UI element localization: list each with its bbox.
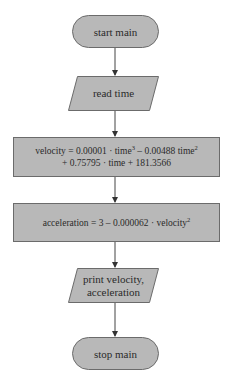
- velocity-process-node: velocity = 0.00001 · time3 – 0.00488 tim…: [13, 137, 220, 177]
- acceleration-formula: acceleration = 3 – 0.000062 · velocity2: [43, 217, 191, 229]
- exponent-2: 2: [187, 216, 190, 223]
- acceleration-term: acceleration = 3 – 0.000062 · velocity: [43, 218, 187, 228]
- read-label: read time: [93, 87, 134, 100]
- exponent-2: 2: [195, 144, 198, 151]
- print-output-node: print velocity, acceleration: [68, 268, 159, 303]
- start-terminal: start main: [72, 15, 159, 48]
- print-label-line2: acceleration: [87, 286, 140, 299]
- velocity-term-a: velocity = 0.00001 · time: [35, 146, 131, 156]
- acceleration-process-node: acceleration = 3 – 0.000062 · velocity2: [13, 203, 220, 242]
- print-label-line1: print velocity,: [83, 273, 144, 286]
- start-label: start main: [94, 26, 138, 38]
- velocity-formula-line2: + 0.75795 · time + 181.3566: [62, 157, 171, 169]
- read-input-node: read time: [68, 76, 159, 111]
- stop-terminal: stop main: [72, 337, 159, 370]
- stop-label: stop main: [94, 348, 137, 360]
- velocity-term-b: – 0.00488 time: [135, 146, 195, 156]
- flowchart-connectors: [0, 0, 230, 384]
- velocity-formula-line1: velocity = 0.00001 · time3 – 0.00488 tim…: [35, 145, 198, 157]
